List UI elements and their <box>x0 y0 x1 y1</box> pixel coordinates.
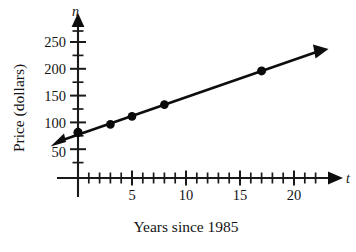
scatter-plot-svg: 250 200 150 100 50 5 10 15 20 n t Years … <box>0 0 356 252</box>
data-point <box>73 128 82 137</box>
chart-figure: 250 200 150 100 50 5 10 15 20 n t Years … <box>0 0 356 252</box>
x-axis-arrow-icon <box>328 172 343 185</box>
data-point <box>106 120 115 129</box>
x-axis-variable-label: t <box>346 171 351 186</box>
data-point <box>257 66 266 75</box>
x-tick-label-20: 20 <box>287 187 302 203</box>
y-tick-label-200: 200 <box>44 61 66 77</box>
data-point <box>128 112 137 121</box>
x-tick-label-15: 15 <box>233 187 248 203</box>
y-tick-label-50: 50 <box>52 144 67 160</box>
data-point <box>160 100 169 109</box>
y-axis-title: Price (dollars) <box>10 64 28 152</box>
y-axis-variable-label: n <box>72 4 79 19</box>
y-tick-label-100: 100 <box>44 115 66 131</box>
trend-line-arrow-right-icon <box>313 45 329 59</box>
y-tick-label-150: 150 <box>44 88 66 104</box>
trend-line <box>62 53 315 141</box>
x-axis-title: Years since 1985 <box>133 218 238 235</box>
y-tick-label-250: 250 <box>44 34 66 50</box>
x-tick-label-10: 10 <box>179 187 194 203</box>
x-tick-label-5: 5 <box>128 187 135 203</box>
